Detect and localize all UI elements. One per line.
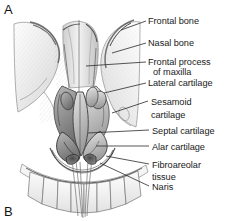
- label-fibroareolar-tissue-line2: tissue: [152, 172, 176, 182]
- label-naris: Naris: [152, 182, 173, 192]
- label-sesamoid-cartilage-line2: cartilage: [151, 110, 185, 120]
- panel-marker-a: A: [4, 3, 13, 16]
- label-nasal-bone: Nasal bone: [148, 38, 194, 48]
- nose-anatomy-figure: [0, 0, 233, 221]
- label-frontal-process-of-maxilla-line2: of maxilla: [153, 67, 191, 77]
- panel-marker-b: B: [4, 205, 13, 218]
- label-frontal-bone: Frontal bone: [148, 16, 199, 26]
- label-septal-cartilage: Septal cartilage: [152, 126, 215, 136]
- label-frontal-process-of-maxilla: Frontal process: [148, 57, 211, 67]
- label-sesamoid-cartilage: Sesamoid: [151, 97, 191, 107]
- label-lateral-cartilage: Lateral cartilage: [148, 78, 213, 88]
- label-alar-cartilage: Alar cartilage: [152, 142, 205, 152]
- label-fibroareolar-tissue: Fibroareolar: [152, 160, 201, 170]
